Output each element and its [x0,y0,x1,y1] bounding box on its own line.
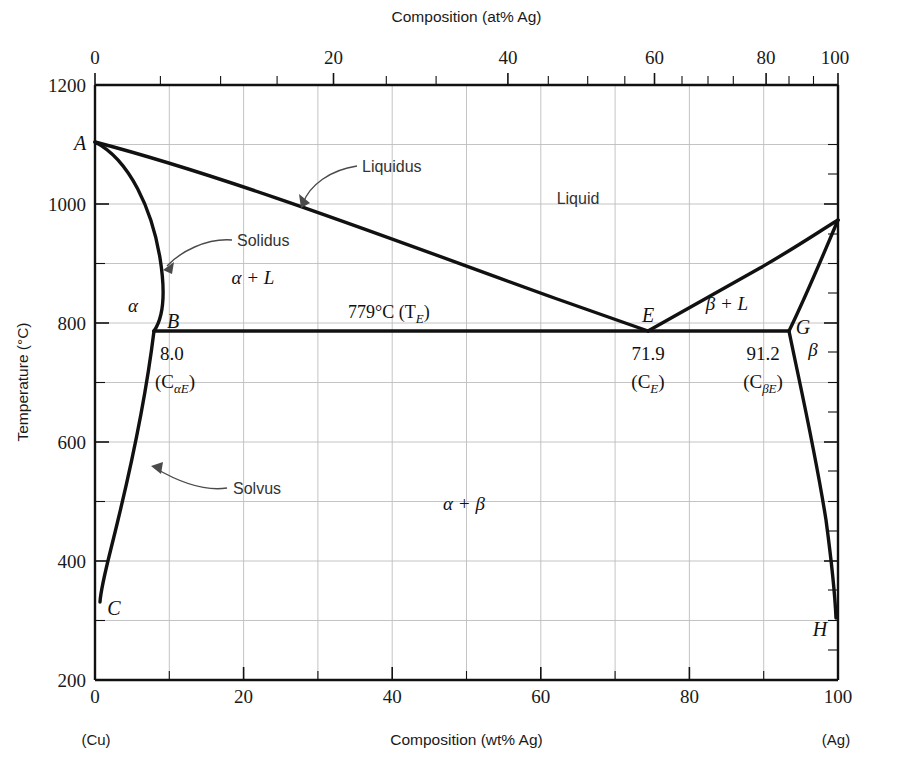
point-label-E: E [641,304,654,326]
comp-close-B: ) [189,371,195,393]
x-bottom-tick-100: 100 [824,686,853,707]
comp-open-G: (C [743,371,762,393]
x-bottom-tick-40: 40 [383,686,402,707]
y-tick-1000: 1000 [48,194,86,215]
eutectic-temp-text: 779°C (T [348,302,416,323]
composition-value-G: 91.2 [746,343,779,364]
liquidus-label: Liquidus [362,158,422,175]
y-tick-600: 600 [58,432,87,453]
comp-sub-B: αE [174,381,189,396]
x-bottom-tick-60: 60 [531,686,550,707]
point-label-G: G [796,316,811,338]
x-bottom-tick-80: 80 [680,686,699,707]
y-tick-200: 200 [58,670,87,691]
top-axis-title: Composition (at% Ag) [392,8,542,25]
phase-diagram-figure: 1200 1000 800 600 400 200 0 20 40 60 80 … [0,0,900,766]
alpha-plus-liquid-label: α + L [232,267,275,288]
y-tick-400: 400 [58,551,87,572]
comp-close-G: ) [777,371,783,393]
comp-sub-G: βE [761,381,776,396]
phase-diagram-svg: 1200 1000 800 600 400 200 0 20 40 60 80 … [0,0,900,766]
x-bottom-tick-0: 0 [90,686,100,707]
comp-sub-E: E [649,381,658,396]
alpha-plus-beta-label: α + β [443,493,485,514]
point-label-A: A [72,132,87,154]
left-axis-title: Temperature (°C) [14,322,31,441]
x-top-tick-20: 20 [324,47,343,68]
point-label-H: H [812,618,829,640]
x-top-tick-40: 40 [498,47,517,68]
eutectic-temp-subscript: E [415,311,424,326]
x-top-tick-0: 0 [90,47,100,68]
right-endmember-label: (Ag) [822,731,850,748]
beta-region-label: β [807,339,818,360]
y-tick-1200: 1200 [48,75,86,96]
x-top-tick-80: 80 [757,47,776,68]
eutectic-temp-close: ) [424,302,430,323]
alpha-region-label: α [128,295,139,316]
solvus-label: Solvus [233,480,281,497]
point-label-B: B [167,310,179,332]
solidus-label: Solidus [237,232,289,249]
x-top-tick-60: 60 [645,47,664,68]
composition-value-E: 71.9 [631,343,664,364]
composition-value-B: 8.0 [160,343,184,364]
comp-open-E: (C [631,371,650,393]
left-endmember-label: (Cu) [81,731,110,748]
liquid-region-label: Liquid [557,190,600,207]
point-label-C: C [107,597,121,619]
comp-close-E: ) [658,371,664,393]
x-bottom-tick-20: 20 [234,686,253,707]
comp-open-B: (C [155,371,174,393]
y-tick-800: 800 [58,313,87,334]
x-top-tick-100: 100 [821,47,850,68]
beta-plus-liquid-label: β + L [705,293,748,314]
bottom-axis-title: Composition (wt% Ag) [390,731,542,748]
